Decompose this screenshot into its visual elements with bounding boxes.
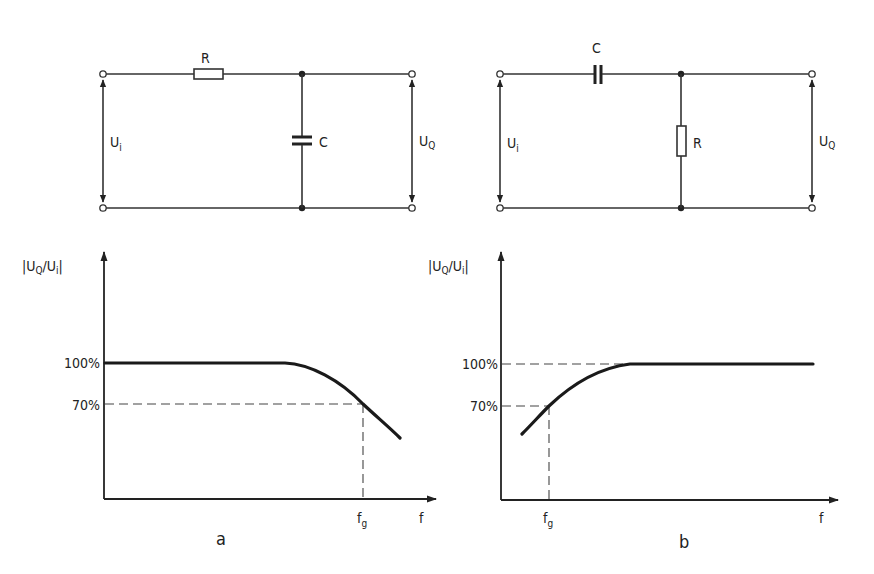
graph-b-highpass-response: |UQ/Ui| 100% 70% fg f b — [428, 252, 838, 552]
circuit-b-highpass: C R Ui UQ — [497, 40, 836, 211]
resistor-icon — [194, 69, 223, 79]
terminal-icon — [100, 205, 106, 211]
resistor-label: R — [201, 50, 210, 66]
terminal-icon — [409, 71, 415, 77]
tick-100-label: 100% — [64, 355, 100, 371]
cutoff-frequency-label: fg — [543, 510, 553, 529]
circuit-a-lowpass: R C Ui UQ — [100, 50, 436, 211]
resistor-icon — [677, 126, 686, 156]
terminal-icon — [409, 205, 415, 211]
capacitor-label: C — [592, 40, 601, 56]
capacitor-label: C — [319, 134, 328, 150]
figure-caption-b: b — [679, 531, 689, 552]
tick-100-label: 100% — [462, 356, 498, 372]
resistor-label: R — [693, 135, 702, 151]
terminal-icon — [809, 71, 815, 77]
input-voltage-label: Ui — [110, 134, 122, 153]
figure-caption-a: a — [216, 528, 226, 549]
output-voltage-label: UQ — [819, 133, 835, 151]
terminal-icon — [497, 71, 503, 77]
terminal-icon — [497, 205, 503, 211]
graph-a-lowpass-response: |UQ/Ui| 100% 70% fg f a — [22, 252, 436, 549]
cutoff-frequency-label: fg — [357, 510, 367, 529]
terminal-icon — [809, 205, 815, 211]
x-axis-label: f — [419, 510, 424, 526]
tick-70-label: 70% — [470, 398, 498, 414]
input-voltage-label: Ui — [507, 135, 519, 154]
y-axis-label: |UQ/Ui| — [22, 258, 63, 276]
y-axis-label: |UQ/Ui| — [428, 258, 469, 276]
x-axis-label: f — [819, 510, 824, 526]
terminal-icon — [100, 71, 106, 77]
filter-diagram: R C Ui UQ C R Ui UQ |UQ/Ui| 100% 70 — [0, 0, 874, 574]
lowpass-curve — [105, 363, 400, 438]
highpass-curve — [522, 364, 813, 434]
tick-70-label: 70% — [72, 397, 100, 413]
output-voltage-label: UQ — [419, 133, 435, 151]
